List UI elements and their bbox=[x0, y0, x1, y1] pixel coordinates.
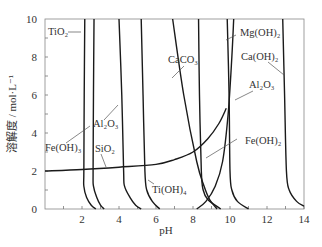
x-tick-label: 12 bbox=[262, 213, 273, 225]
curves bbox=[45, 19, 304, 209]
label-feoh3: Fe(OH)₃ bbox=[45, 142, 82, 154]
leader-feoh2 bbox=[206, 139, 237, 158]
y-tick-label: 4 bbox=[32, 127, 38, 139]
label-al2o3-left: Al₂O₃ bbox=[93, 118, 119, 129]
curve-al2o3-acid bbox=[119, 19, 141, 209]
x-tick-label: 14 bbox=[299, 213, 311, 225]
y-axis-title: 溶解度 / mol·L⁻¹ bbox=[5, 75, 18, 153]
y-tick-label: 2 bbox=[32, 165, 38, 177]
y-tick-label: 10 bbox=[26, 13, 38, 25]
label-sio2: SiO₂ bbox=[95, 143, 115, 154]
solubility-chart: 24681012140246810 TiO₂ Al₂O₃ Fe(OH)₃ SiO… bbox=[0, 0, 322, 247]
leader-feoh3 bbox=[66, 126, 90, 143]
curve-sio2 bbox=[45, 108, 226, 171]
label-caco3: CaCO₃ bbox=[168, 54, 198, 65]
curve-fe-oh-3 bbox=[93, 19, 104, 209]
y-tick-label: 8 bbox=[32, 51, 38, 63]
label-tio2: TiO₂ bbox=[48, 26, 69, 37]
curve-ti-oh-4 bbox=[141, 19, 160, 209]
leader-sio2 bbox=[101, 154, 106, 167]
leader-caoh2 bbox=[268, 62, 284, 75]
x-tick-label: 4 bbox=[116, 213, 122, 225]
x-axis-title: pH bbox=[159, 224, 173, 236]
label-caoh2: Ca(OH)₂ bbox=[241, 51, 279, 63]
label-tioh4: Ti(OH)₄ bbox=[152, 184, 187, 196]
x-tick-label: 8 bbox=[190, 213, 196, 225]
label-al2o3-right: Al₂O₃ bbox=[249, 79, 275, 90]
leader-al2o3-right bbox=[235, 91, 253, 100]
curve-caco3 bbox=[173, 19, 217, 209]
curve-ca-oh-2 bbox=[283, 19, 304, 206]
label-mgoh2: Mg(OH)₂ bbox=[240, 27, 281, 39]
y-tick-label: 6 bbox=[32, 89, 38, 101]
y-tick-label: 0 bbox=[32, 203, 38, 215]
x-tick-label: 10 bbox=[225, 213, 237, 225]
curve-mg-oh-2 bbox=[227, 19, 248, 209]
leader-caco3 bbox=[172, 66, 184, 78]
x-tick-label: 2 bbox=[79, 213, 85, 225]
label-feoh2: Fe(OH)₂ bbox=[245, 135, 282, 147]
